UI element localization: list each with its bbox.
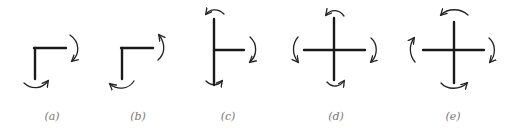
moment-arrow-top-icon [441,10,468,15]
panel-label-e: (e) [445,110,460,123]
moment-arrow-left-icon [294,37,299,62]
moment-arrow-right-icon [371,38,376,62]
moment-arrow-right-icon [70,35,78,61]
moment-arrow-right-icon [489,38,494,62]
moment-arrow-right-icon [250,37,256,62]
panel-b [110,35,164,88]
panel-label-a: (a) [44,110,59,123]
panel-label-c: (c) [221,110,236,123]
moment-arrow-bottom-icon [327,81,344,86]
panel-a [24,35,78,88]
panel-d [294,11,377,86]
moment-arrow-top-icon [326,11,344,16]
moment-arrow-right-icon [158,35,164,60]
moment-arrow-bottom-icon [110,81,134,88]
panel-c [206,10,256,85]
panel-e [410,10,494,89]
moment-arrow-bottom-icon [24,81,48,88]
panel-label-d: (d) [328,110,344,123]
moment-arrow-left-icon [410,38,415,62]
moment-arrow-top-icon [206,10,224,14]
panel-label-b: (b) [130,110,146,123]
